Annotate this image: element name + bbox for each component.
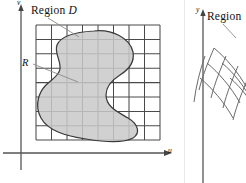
cell-r-label: R — [22, 58, 28, 69]
region-d-label-italic: D — [69, 4, 78, 16]
region-leader-line-right — [223, 24, 236, 38]
grid-curve — [230, 78, 246, 118]
right-panel — [194, 9, 246, 183]
region-label-right: Region — [207, 11, 241, 23]
u-axis-label: u — [168, 147, 172, 155]
region-d-leader-line — [48, 18, 79, 37]
grid-curve — [214, 48, 246, 88]
region-d-label: Region D — [31, 5, 77, 17]
region-d-label-text: Region — [31, 4, 69, 16]
figure-root: v u Region D R y Region — [0, 0, 246, 183]
y-axis-label: y — [196, 6, 199, 14]
y-axis-arrowhead — [200, 9, 205, 16]
grid-curve — [223, 66, 238, 108]
grid-curve — [233, 78, 246, 120]
v-axis-label: v — [17, 0, 20, 7]
xy-curvilinear-grid — [194, 48, 246, 120]
panel-divider — [184, 0, 185, 183]
grid-curve — [211, 56, 226, 98]
region-d-shape — [38, 31, 138, 142]
figure-canvas — [0, 0, 246, 183]
grid-curve — [200, 78, 233, 118]
